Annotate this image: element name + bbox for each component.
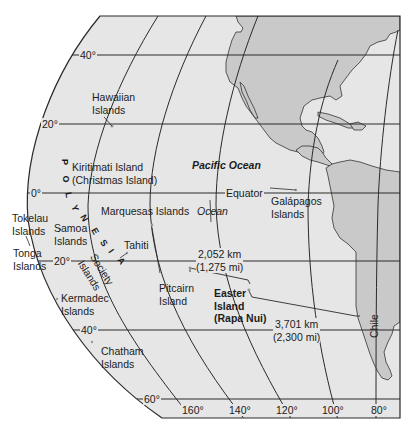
label-line: (Rapa Nui) <box>214 312 267 325</box>
pacific-ocean-label: Pacific Ocean <box>192 159 261 172</box>
label-line: Hawaiian <box>92 91 135 104</box>
label-line: Samoa <box>54 222 87 235</box>
label-line: Galápagos <box>271 195 322 208</box>
marquesas-islands-label: Marquesas Islands <box>101 205 189 218</box>
longitude-label-100: 100° <box>321 404 345 416</box>
label-line: Easter <box>214 287 267 300</box>
label-line: Island <box>214 300 267 313</box>
hawaiian-islands-label: Hawaiian Islands <box>92 91 135 116</box>
distance-label-pitcairn-easter: 2,052 km (1,275 mi) <box>196 248 243 273</box>
label-line: Chatham <box>101 345 144 358</box>
tokelau-islands-label: Tokelau Islands <box>12 212 48 237</box>
longitude-label-160: 160° <box>181 404 205 416</box>
kiritimati-island-label: Kiritimati Island (Christmas Island) <box>72 161 157 186</box>
kermadec-islands-label: Kermadec Islands <box>61 292 109 317</box>
distance-label-easter-chile: 3,701 km (2,300 mi) <box>273 318 320 343</box>
label-line: Islands <box>12 225 48 238</box>
latitude-label-0: 0° <box>30 187 42 199</box>
label-line: Islands <box>101 358 144 371</box>
latitude-label-40s: 40° <box>80 324 98 336</box>
distance-km: 2,052 km <box>196 248 243 261</box>
label-line: Tonga <box>13 247 46 260</box>
label-line: Tokelau <box>12 212 48 225</box>
chile-label: Chile <box>368 314 381 338</box>
pitcairn-island-label: Pitcairn Island <box>159 282 194 307</box>
latitude-label-40n: 40° <box>79 49 97 61</box>
label-line: Islands <box>92 104 135 117</box>
ocean-label: Ocean <box>197 205 228 218</box>
tonga-islands-label: Tonga Islands <box>13 247 46 272</box>
distance-mi: (2,300 mi) <box>273 331 320 344</box>
label-line: Pitcairn <box>159 282 194 295</box>
label-line: Islands <box>271 208 322 221</box>
label-line: Islands <box>13 260 46 273</box>
label-line: Kermadec <box>61 292 109 305</box>
latitude-label-20s: 20° <box>53 255 71 267</box>
label-line: (Christmas Island) <box>72 174 157 187</box>
longitude-label-80: 80° <box>370 404 388 416</box>
latitude-label-20n: 20° <box>41 118 59 130</box>
polynesia-letter-l: L <box>63 191 74 198</box>
label-line: Islands <box>54 235 87 248</box>
polynesia-letter-p: P <box>60 159 70 165</box>
longitude-label-140: 140° <box>228 404 252 416</box>
distance-km: 3,701 km <box>273 318 320 331</box>
galapagos-islands-label: Galápagos Islands <box>271 195 322 220</box>
longitude-label-120: 120° <box>275 404 299 416</box>
chatham-islands-label: Chatham Islands <box>101 345 144 370</box>
equator-label: Equator <box>225 187 264 199</box>
easter-island-label: Easter Island (Rapa Nui) <box>214 287 267 325</box>
samoa-islands-label: Samoa Islands <box>54 222 87 247</box>
distance-mi: (1,275 mi) <box>196 261 243 274</box>
label-line: Kiritimati Island <box>72 161 157 174</box>
label-line: Island <box>159 295 194 308</box>
label-line: Islands <box>61 305 109 318</box>
tahiti-label: Tahiti <box>124 239 149 252</box>
latitude-label-60s: 60° <box>143 393 161 405</box>
polynesia-letter-o: O <box>61 175 71 182</box>
